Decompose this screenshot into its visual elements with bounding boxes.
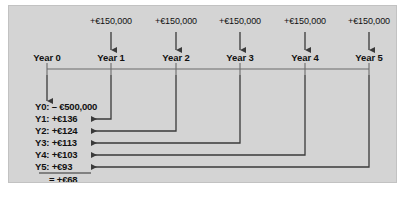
- year-label-1: Year 1: [97, 53, 124, 63]
- year-label-2: Year 2: [162, 53, 189, 63]
- cash-flow-row-y4: Y4: +€103: [35, 150, 77, 160]
- cash-flow-row-y4-period: Y4:: [35, 149, 49, 160]
- cash-flow-row-y1-period: Y1:: [35, 113, 49, 124]
- connector-y1: [91, 75, 111, 119]
- cash-flow-row-y2-amount: +€124: [52, 125, 78, 136]
- cash-flow-row-y3-amount: +€113: [52, 137, 77, 148]
- cash-flow-row-y0: Y0: – €500,000: [35, 102, 97, 112]
- year-label-0: Year 0: [33, 53, 60, 63]
- inflow-label-year-5: +€150,000: [348, 17, 390, 26]
- cash-flow-row-y1: Y1: +€136: [35, 114, 77, 124]
- year-label-5: Year 5: [355, 53, 382, 63]
- cash-flow-connectors: [91, 75, 369, 167]
- inflow-label-year-2: +€150,000: [155, 17, 197, 26]
- cash-flow-row-y5: Y5: +€93: [35, 162, 72, 172]
- connector-y3: [91, 75, 240, 143]
- cash-flow-row-y5-amount: +€93: [52, 161, 73, 172]
- inflow-arrows: [111, 32, 369, 50]
- year-label-4: Year 4: [291, 53, 318, 63]
- cash-flow-row-y2-period: Y2:: [35, 125, 49, 136]
- year-label-3: Year 3: [226, 53, 253, 63]
- net-present-value-total: = +€68: [49, 175, 77, 183]
- connector-y5: [91, 75, 369, 167]
- cash-flow-row-y5-period: Y5:: [35, 161, 49, 172]
- cash-flow-row-y0-amount: – €500,000: [52, 101, 98, 112]
- cash-flow-row-y0-period: Y0:: [35, 101, 49, 112]
- inflow-label-year-4: +€150,000: [284, 17, 326, 26]
- cash-flow-row-y3-period: Y3:: [35, 137, 49, 148]
- cash-flow-row-y2: Y2: +€124: [35, 126, 77, 136]
- inflow-label-year-1: +€150,000: [90, 17, 132, 26]
- connector-y2: [91, 75, 176, 131]
- cash-flow-row-y1-amount: +€136: [52, 113, 78, 124]
- cash-flow-row-y4-amount: +€103: [52, 149, 78, 160]
- inflow-label-year-3: +€150,000: [219, 17, 261, 26]
- cash-flow-diagram-panel: +€150,000 +€150,000 +€150,000 +€150,000 …: [8, 5, 397, 183]
- cash-flow-row-y3: Y3: +€113: [35, 138, 77, 148]
